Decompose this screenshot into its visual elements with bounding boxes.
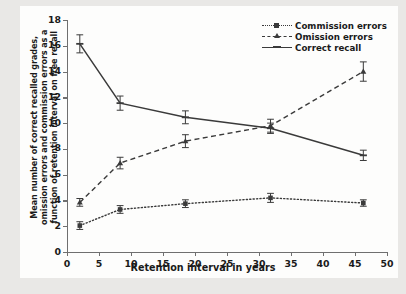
y-tick-label-8: 8 xyxy=(39,142,61,153)
x-tick xyxy=(163,252,164,256)
x-tick xyxy=(355,252,356,256)
legend-label-commission-errors: Commission errors xyxy=(295,21,387,31)
legend-item-commission-errors[interactable]: Commission errors xyxy=(262,20,387,31)
x-tick xyxy=(323,252,324,256)
legend-label-omission-errors: Omission errors xyxy=(295,32,373,42)
data-point xyxy=(268,196,273,201)
y-tick-label-2: 2 xyxy=(39,220,61,231)
legend-key-dashed-icon xyxy=(262,31,292,42)
legend-key-dotted-icon xyxy=(262,20,292,31)
y-tick-label-12: 12 xyxy=(39,91,61,102)
series-omission-errors xyxy=(76,62,366,206)
series-correct-recall xyxy=(76,35,367,161)
y-axis-title-line-1: Mean number of correct recalled grades, xyxy=(29,4,39,250)
legend: Commission errors Omission errors Correc… xyxy=(262,20,387,53)
plot-area: 024681012141618 05101520253035404550 xyxy=(67,20,387,252)
x-axis-title: Retention interval in years xyxy=(0,262,406,273)
x-tick xyxy=(67,252,68,256)
legend-item-correct-recall[interactable]: Correct recall xyxy=(262,42,387,53)
legend-item-omission-errors[interactable]: Omission errors xyxy=(262,31,387,42)
y-tick-label-0: 0 xyxy=(39,246,61,257)
series-line xyxy=(80,44,364,155)
y-tick-label-18: 18 xyxy=(39,14,61,25)
series-line xyxy=(80,72,364,203)
data-point xyxy=(78,223,83,228)
y-tick-label-14: 14 xyxy=(39,65,61,76)
legend-key-solid-icon xyxy=(262,42,292,53)
data-point xyxy=(117,160,123,165)
x-tick xyxy=(195,252,196,256)
data-point xyxy=(360,69,366,74)
data-point xyxy=(361,201,366,206)
x-tick xyxy=(259,252,260,256)
y-tick-label-10: 10 xyxy=(39,117,61,128)
y-tick-label-16: 16 xyxy=(39,39,61,50)
x-tick xyxy=(227,252,228,256)
data-point xyxy=(118,207,123,212)
figure-container: Mean number of correct recalled grades, … xyxy=(0,0,406,294)
data-point xyxy=(183,201,188,206)
data-series-layer xyxy=(67,20,387,252)
y-tick-label-4: 4 xyxy=(39,194,61,205)
x-tick xyxy=(387,252,388,256)
y-tick-label-6: 6 xyxy=(39,168,61,179)
x-tick xyxy=(291,252,292,256)
x-tick xyxy=(131,252,132,256)
x-tick xyxy=(99,252,100,256)
series-commission-errors xyxy=(76,193,366,229)
legend-label-correct-recall: Correct recall xyxy=(295,43,361,53)
